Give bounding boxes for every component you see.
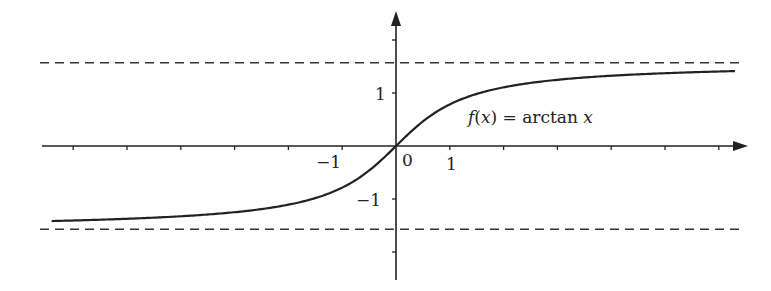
y-axis-arrow-icon — [391, 11, 401, 26]
x-tick-label-1: 1 — [446, 154, 457, 174]
y-tick-label-minus-1: −1 — [356, 190, 381, 210]
arctan-plot: −1 0 1 1 −1 f(x) = arctan x — [0, 0, 771, 291]
x-axis-arrow-icon — [733, 141, 748, 151]
x-tick-label-minus-1: −1 — [316, 152, 341, 172]
function-label: f(x) = arctan x — [466, 107, 593, 127]
x-tick-label-0: 0 — [402, 150, 413, 170]
y-tick-label-1: 1 — [375, 84, 386, 104]
